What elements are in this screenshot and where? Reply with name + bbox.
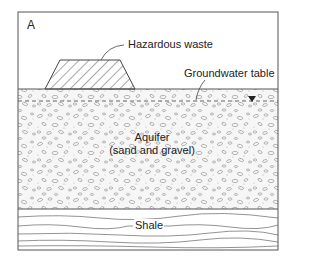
hazardous-waste-pile (45, 60, 135, 89)
panel-label: A (27, 19, 35, 32)
aquifer-label-line2: (sand and gravel) (100, 144, 204, 157)
groundwater-table-label: Groundwater table (184, 67, 275, 80)
hazardous-waste-leader (101, 45, 124, 60)
aquifer-label: Aquifer (sand and gravel) (100, 131, 204, 157)
hazardous-waste-label: Hazardous waste (128, 38, 213, 51)
shale-label: Shale (134, 219, 164, 232)
aquifer-label-line1: Aquifer (100, 131, 204, 144)
